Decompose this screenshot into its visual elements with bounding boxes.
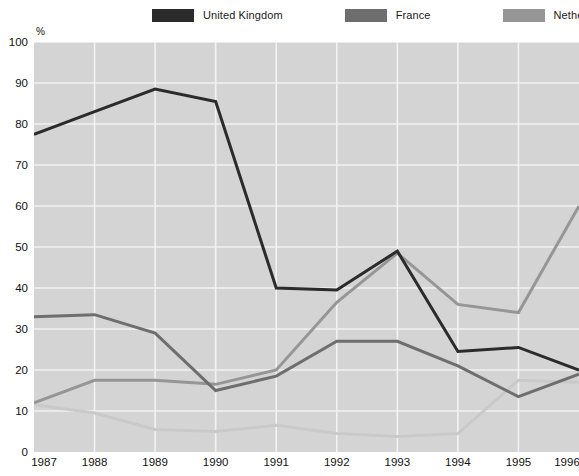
y-axis: 0102030405060708090100: [0, 0, 34, 476]
x-axis: 1987198819891990199119921993199419951996: [34, 456, 579, 476]
plot-area: [34, 42, 579, 452]
x-tick-label-1993: 1993: [385, 456, 411, 468]
legend-label: Netherlands: [554, 9, 579, 21]
y-tick-label-80: 80: [15, 118, 28, 130]
y-tick-label-60: 60: [15, 200, 28, 212]
x-tick-label-1992: 1992: [324, 456, 350, 468]
y-tick-label-50: 50: [15, 241, 28, 253]
y-tick-label-30: 30: [15, 323, 28, 335]
x-tick-label-1988: 1988: [82, 456, 108, 468]
legend-label: United Kingdom: [203, 9, 283, 21]
legend-entry-france[interactable]: France: [345, 9, 431, 22]
x-tick-label-1991: 1991: [263, 456, 289, 468]
x-tick-label-1995: 1995: [506, 456, 532, 468]
data-series-group: [34, 89, 579, 436]
series-line-france[interactable]: [34, 315, 579, 397]
legend-entry-united-kingdom[interactable]: United Kingdom: [152, 9, 283, 22]
x-tick-label-1987: 1987: [31, 456, 57, 468]
x-tick-label-1994: 1994: [445, 456, 471, 468]
series-line-germany[interactable]: [34, 380, 579, 436]
y-tick-label-0: 0: [22, 446, 28, 458]
y-axis-unit-label: %: [36, 26, 45, 37]
y-tick-label-20: 20: [15, 364, 28, 376]
legend-entry-netherlands[interactable]: Netherlands: [503, 9, 579, 22]
legend-swatch-netherlands: [503, 9, 545, 22]
chart-legend: United KingdomFranceNetherlandsGermany: [0, 0, 579, 30]
x-tick-label-1996: 1996: [554, 456, 579, 468]
plot-svg: [34, 42, 579, 452]
x-tick-label-1990: 1990: [203, 456, 229, 468]
legend-swatch-france: [345, 9, 387, 22]
series-line-netherlands[interactable]: [34, 206, 579, 403]
y-tick-label-10: 10: [15, 405, 28, 417]
line-chart: United KingdomFranceNetherlandsGermany %…: [0, 0, 579, 476]
legend-label: France: [396, 9, 431, 21]
series-line-united-kingdom[interactable]: [34, 89, 579, 370]
legend-swatch-united-kingdom: [152, 9, 194, 22]
y-tick-label-100: 100: [9, 36, 28, 48]
x-tick-label-1989: 1989: [142, 456, 168, 468]
y-tick-label-90: 90: [15, 77, 28, 89]
y-tick-label-40: 40: [15, 282, 28, 294]
y-tick-label-70: 70: [15, 159, 28, 171]
